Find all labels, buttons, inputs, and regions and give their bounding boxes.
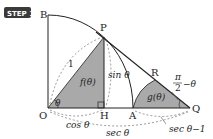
label-R: R [151,67,159,78]
label-g: g(θ) [147,92,166,102]
dim-sec-minus-one [135,111,188,117]
label-cos: cos θ [66,120,90,130]
label-B: B [40,9,47,20]
label-f: f(θ) [79,77,96,87]
label-Q: Q [192,103,200,114]
label-O: O [39,110,47,121]
label-sin: sin θ [108,70,130,80]
label-angle-den: 2 [175,83,181,93]
leader-sec-minus-one [161,117,166,124]
label-radius: 1 [68,59,74,69]
label-theta: θ [55,98,61,108]
label-P: P [100,22,107,33]
label-H: H [100,110,109,121]
label-sec-minus-one: sec θ−1 [169,124,206,134]
label-angle-num: π [174,72,182,82]
diagram: STEP 1 B P R O H A Q 1 θ f(θ) g(θ) sin θ… [0,0,213,139]
label-A: A [128,110,137,121]
label-sec: sec θ [106,128,130,138]
step-badge-text: STEP 1 [7,10,34,18]
label-angle-rest: −θ [183,79,197,89]
